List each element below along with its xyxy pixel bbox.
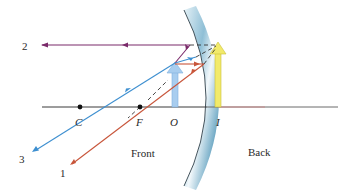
ray-1-arrowhead-incident bbox=[194, 62, 200, 67]
focal-point-label: F bbox=[135, 116, 143, 128]
front-side-label: Front bbox=[131, 147, 155, 159]
object-arrow bbox=[167, 62, 183, 107]
focal-point bbox=[138, 105, 143, 110]
center-of-curvature-label: C bbox=[75, 116, 83, 128]
ray-1-arrowhead bbox=[70, 159, 76, 165]
ray-1-label: 1 bbox=[60, 167, 66, 179]
ray-3-label: 3 bbox=[19, 153, 25, 165]
convex-mirror-diagram: 2 3 1 C F O I Front Back bbox=[0, 0, 351, 196]
ray-3-arrowhead bbox=[32, 146, 39, 152]
center-of-curvature-point bbox=[78, 105, 83, 110]
ray-2-arrowhead-end bbox=[41, 43, 48, 48]
image-label: I bbox=[215, 116, 221, 128]
ray-1-arrowhead-mid bbox=[191, 69, 196, 74]
ray-2 bbox=[41, 43, 190, 64]
convex-mirror bbox=[184, 6, 219, 190]
object-label: O bbox=[170, 116, 178, 128]
ray-2-label: 2 bbox=[22, 40, 28, 52]
ray-2-arrowhead bbox=[122, 43, 128, 48]
back-side-label: Back bbox=[248, 146, 271, 158]
